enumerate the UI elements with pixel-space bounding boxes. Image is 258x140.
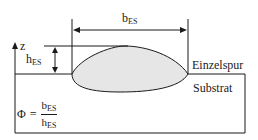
weld-bead-diagram: bES hES z Einzelspur Substrat Φ = bES hE… bbox=[0, 0, 258, 140]
numerator-sub: ES bbox=[47, 104, 56, 113]
substrate-label: Substrat bbox=[193, 82, 232, 94]
bead-label: Einzelspur bbox=[192, 59, 243, 71]
height-label-sub: ES bbox=[32, 58, 41, 67]
formula-denominator: hES bbox=[41, 116, 58, 130]
aspect-ratio-formula: Φ = bES hES bbox=[17, 99, 57, 130]
width-label: bES bbox=[122, 12, 137, 24]
formula-numerator: bES bbox=[41, 99, 58, 113]
denominator-sub: ES bbox=[47, 121, 56, 130]
formula-fraction: bES hES bbox=[41, 99, 58, 130]
height-label: hES bbox=[26, 53, 41, 65]
width-label-sub: ES bbox=[128, 17, 137, 26]
fraction-bar bbox=[41, 114, 58, 115]
formula-lhs: Φ bbox=[17, 107, 26, 122]
z-axis-label: z bbox=[20, 40, 25, 52]
formula-equals: = bbox=[30, 107, 37, 122]
bead-shape bbox=[72, 46, 188, 92]
